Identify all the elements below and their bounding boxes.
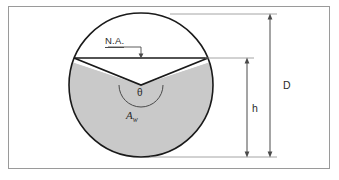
wetted-area-fill <box>60 58 222 170</box>
na-leader-line <box>108 47 141 55</box>
wetted-area-symbol: A <box>126 109 133 121</box>
neutral-axis-label: N.A. <box>105 36 124 48</box>
diameter-label: D <box>283 80 291 91</box>
wetted-area-label: Aw <box>126 110 138 124</box>
theta-angle-label: θ <box>137 88 143 98</box>
wetted-area-subscript: w <box>133 115 138 124</box>
dimension-arrow-h-top <box>245 58 250 64</box>
depth-label: h <box>252 103 258 114</box>
figure-container: N.A. θ Aw D h <box>0 0 339 180</box>
